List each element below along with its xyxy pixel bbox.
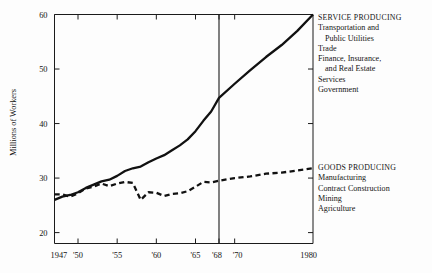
chart-figure: 20304050601947'50'55'60'65'68'701980 Mil… — [0, 0, 432, 273]
x-tick-label: '55 — [112, 251, 122, 260]
tick-layer — [55, 15, 314, 244]
y-tick-label: 40 — [39, 120, 47, 129]
legend-service-item: Transportation and — [318, 23, 402, 33]
x-tick-label: '60 — [151, 251, 161, 260]
series-layer — [55, 15, 314, 200]
legend-goods-item: Mining — [318, 194, 396, 204]
legend-service-item: Finance, Insurance, — [318, 54, 402, 64]
tick-label-layer: 20304050601947'50'55'60'65'68'701980 — [39, 11, 317, 260]
legend-service-item: Services — [318, 75, 402, 85]
x-tick-label: '65 — [191, 251, 201, 260]
legend-goods-item: Manufacturing — [318, 173, 396, 183]
x-tick-label: '70 — [233, 251, 243, 260]
legend-goods-item: Agriculture — [318, 204, 396, 214]
legend-service-item: Trade — [318, 44, 402, 54]
y-tick-label: 60 — [39, 11, 47, 20]
legend-service-item: Public Utilities — [318, 34, 402, 44]
y-tick-label: 30 — [39, 174, 47, 183]
y-tick-label: 20 — [39, 229, 47, 238]
x-tick-label: '68 — [212, 251, 222, 260]
x-tick-label: 1947 — [51, 251, 68, 260]
legend-goods-producing: GOODS PRODUCING ManufacturingContract Co… — [318, 163, 396, 214]
x-tick-label: 1980 — [300, 251, 317, 260]
legend-service-items: Transportation andPublic UtilitiesTradeF… — [318, 23, 402, 95]
legend-service-item: Government — [318, 85, 402, 95]
y-tick-label: 50 — [39, 65, 47, 74]
legend-goods-item: Contract Construction — [318, 184, 396, 194]
axis-layer — [55, 15, 314, 244]
x-tick-label: '50 — [73, 251, 83, 260]
legend-goods-items: ManufacturingContract ConstructionMining… — [318, 173, 396, 214]
legend-service-heading: SERVICE PRODUCING — [318, 13, 402, 23]
legend-service-item: and Real Estate — [318, 64, 402, 74]
legend-service-producing: SERVICE PRODUCING Transportation andPubl… — [318, 13, 402, 95]
legend-goods-heading: GOODS PRODUCING — [318, 163, 396, 173]
y-axis-title: Millions of Workers — [9, 86, 18, 160]
